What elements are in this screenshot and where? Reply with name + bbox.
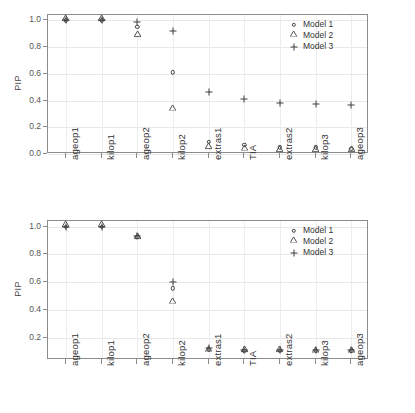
gridline-horizontal: [48, 310, 367, 311]
x-tick-label-ageop3: ageop3: [354, 127, 365, 160]
y-tick-label: 0.4: [19, 95, 41, 105]
legend-label: Model 1: [303, 19, 333, 30]
x-tick-label-kilop3: kilop3: [319, 134, 330, 160]
y-tick-mark: [43, 73, 47, 74]
data-point-plus: [205, 88, 212, 95]
legend-label: Model 2: [303, 30, 333, 41]
gridline-vertical: [244, 221, 245, 358]
legend-key-plus-icon: [289, 247, 300, 258]
y-tick-label: 0.6: [19, 276, 41, 286]
y-tick-mark: [43, 100, 47, 101]
data-point-plus: [205, 345, 212, 352]
x-tick-mark: [65, 153, 66, 158]
x-tick-label-ageop3: ageop3: [354, 333, 365, 366]
marker-triangle: [291, 34, 297, 39]
gridline-vertical: [351, 15, 352, 152]
y-tick-label: 0.8: [19, 248, 41, 258]
x-tick-mark: [208, 153, 209, 158]
legend-key-circle-icon: [289, 19, 300, 30]
data-point-plus: [98, 17, 105, 24]
x-tick-label-extras2: extras2: [283, 333, 294, 366]
x-tick-mark: [279, 359, 280, 364]
x-tick-mark: [243, 359, 244, 364]
y-tick-mark: [43, 19, 47, 20]
marker-circle: [292, 23, 296, 27]
x-tick-mark: [350, 359, 351, 364]
legend-key-plus-icon: [289, 41, 300, 52]
data-point-plus: [348, 101, 355, 108]
gridline-vertical: [280, 15, 281, 152]
gridline-horizontal: [48, 282, 367, 283]
gridline-horizontal: [48, 101, 367, 102]
gridline-vertical: [102, 15, 103, 152]
chart-panel-bottom: PIP 0.20.40.60.81.0 ageop1kilop1ageop2ki…: [0, 207, 415, 413]
y-tick-mark: [43, 226, 47, 227]
data-point-plus: [134, 232, 141, 239]
marker-triangle: [291, 240, 297, 245]
data-point-triangle: [170, 301, 176, 306]
gridline-vertical: [280, 221, 281, 358]
x-tick-mark: [101, 359, 102, 364]
gridline-vertical: [209, 221, 210, 358]
gridline-vertical: [66, 15, 67, 152]
y-tick-label: 0.2: [19, 332, 41, 342]
y-tick-label: 0.8: [19, 41, 41, 51]
x-tick-label-extras2: extras2: [283, 127, 294, 160]
data-point-triangle: [134, 34, 140, 39]
legend-key-circle-icon: [289, 225, 300, 236]
gridline-horizontal: [48, 74, 367, 75]
legend-label: Model 3: [303, 41, 333, 52]
data-point-plus: [169, 28, 176, 35]
x-tick-mark: [136, 359, 137, 364]
x-tick-mark: [350, 153, 351, 158]
x-tick-mark: [208, 359, 209, 364]
data-point-triangle: [206, 146, 212, 151]
data-point-triangle: [277, 149, 283, 154]
x-tick-mark: [279, 153, 280, 158]
x-tick-label-ageop1: ageop1: [69, 127, 80, 160]
marker-plus: [291, 44, 298, 51]
y-tick-label: 0.4: [19, 304, 41, 314]
legend-key-triangle-icon: [289, 236, 300, 247]
data-point-triangle: [170, 107, 176, 112]
data-point-plus: [241, 96, 248, 103]
marker-circle: [292, 229, 296, 233]
data-point-plus: [62, 17, 69, 24]
data-point-plus: [276, 100, 283, 107]
x-tick-label-kilop3: kilop3: [319, 340, 330, 366]
gridline-horizontal: [48, 338, 367, 339]
x-tick-label-kilop2: kilop2: [176, 134, 187, 160]
x-tick-mark: [243, 153, 244, 158]
legend-key-triangle-icon: [289, 30, 300, 41]
x-tick-mark: [136, 153, 137, 158]
gridline-vertical: [244, 15, 245, 152]
x-tick-label-ageop2: ageop2: [140, 333, 151, 366]
marker-plus: [291, 250, 298, 257]
y-tick-label: 1.0: [19, 221, 41, 231]
y-tick-label: 0.0: [19, 148, 41, 158]
y-tick-label: 0.2: [19, 121, 41, 131]
x-tick-mark: [101, 153, 102, 158]
figure-root: PIP 0.00.20.40.60.81.0 ageop1kilop1ageop…: [0, 0, 415, 413]
gridline-vertical: [66, 221, 67, 358]
x-tick-mark: [65, 359, 66, 364]
data-point-circle: [135, 25, 139, 29]
x-tick-label-extras1: extras1: [212, 127, 223, 160]
x-tick-label-kilop2: kilop2: [176, 340, 187, 366]
data-point-plus: [62, 223, 69, 230]
y-tick-mark: [43, 153, 47, 154]
gridline-vertical: [173, 15, 174, 152]
gridline-vertical: [351, 221, 352, 358]
legend-label: Model 3: [303, 247, 333, 258]
x-tick-mark: [315, 359, 316, 364]
data-point-circle: [171, 286, 175, 290]
y-tick-mark: [43, 281, 47, 282]
data-point-plus: [312, 100, 319, 107]
y-tick-mark: [43, 253, 47, 254]
x-tick-label-extras1: extras1: [212, 333, 223, 366]
gridline-vertical: [102, 221, 103, 358]
y-tick-mark: [43, 46, 47, 47]
y-tick-mark: [43, 337, 47, 338]
legend-label: Model 1: [303, 225, 333, 236]
gridline-horizontal: [48, 127, 367, 128]
